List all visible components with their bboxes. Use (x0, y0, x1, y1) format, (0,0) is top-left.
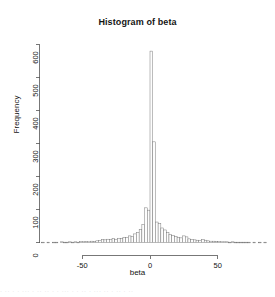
histogram-bar (253, 242, 256, 243)
histogram-bar (93, 242, 96, 243)
histogram-bar (85, 242, 88, 243)
histogram-bar (117, 238, 120, 242)
histogram-bar (158, 223, 161, 242)
histogram-bar (226, 242, 229, 243)
histogram-bar (185, 237, 188, 243)
histogram-bar (77, 242, 80, 243)
y-axis-tick-label: 300 (30, 143, 39, 169)
histogram-bar (88, 242, 91, 243)
histogram-bar (63, 242, 66, 243)
histogram-bar (248, 242, 251, 243)
histogram-bar (166, 233, 169, 243)
histogram-bar (212, 241, 215, 242)
histogram-bar (193, 240, 196, 243)
histogram-bar (172, 236, 175, 243)
histogram-bar (120, 239, 123, 243)
histogram-bar (123, 237, 126, 242)
histogram-bar (101, 240, 104, 243)
y-axis-tick-label: 600 (30, 44, 39, 70)
histogram-bar (134, 234, 137, 243)
histogram-bar (220, 242, 223, 243)
histogram-bar (139, 229, 142, 242)
histogram-bar (199, 241, 202, 243)
histogram-bar (104, 240, 107, 243)
histogram-bar (180, 238, 183, 243)
histogram-bar (66, 242, 69, 243)
histogram-bar (207, 241, 210, 243)
histogram-bar (242, 242, 245, 243)
y-axis-tick-label: 400 (30, 110, 39, 136)
histogram-bar (196, 240, 199, 242)
x-axis-tick-label: -50 (67, 261, 97, 270)
histogram-bar (153, 142, 156, 243)
histogram-bar (90, 241, 93, 242)
y-axis-tick-label: 500 (30, 77, 39, 103)
y-axis-tick-label: 100 (30, 209, 39, 235)
histogram-bar (109, 240, 112, 243)
histogram-bar (183, 236, 186, 243)
histogram-bar (147, 210, 150, 242)
histogram-bar (237, 242, 240, 243)
histogram-bar (201, 240, 204, 243)
histogram-plot: Histogram of beta Frequency beta 0100200… (0, 0, 275, 297)
histogram-bar (69, 242, 72, 243)
histogram-bar (145, 208, 148, 243)
histogram-bar (115, 239, 118, 242)
histogram-bar (142, 224, 145, 242)
histogram-bar (191, 240, 194, 243)
histogram-bar (128, 236, 131, 243)
x-axis-tick-label: 50 (203, 261, 233, 270)
histogram-bar (229, 242, 232, 243)
histogram-bar (82, 242, 85, 243)
histogram-bar (223, 242, 226, 243)
histogram-bar (52, 242, 55, 243)
histogram-bar (99, 241, 102, 243)
histogram-bar (71, 242, 74, 243)
histogram-bar (188, 239, 191, 243)
histogram-bar (239, 242, 242, 243)
histogram-bar (234, 242, 237, 243)
page-edge-artifact: · ·· · · ··· · ·· ·· · · ··· · · ·· · ··… (0, 288, 275, 297)
histogram-bar (174, 237, 177, 243)
histogram-bar (169, 234, 172, 242)
histogram-bar (155, 222, 158, 242)
histogram-bar (215, 242, 218, 243)
histogram-bar (112, 239, 115, 243)
histogram-bar (177, 237, 180, 242)
histogram-bar (126, 238, 129, 243)
histogram-bar (264, 242, 267, 243)
y-axis-tick-label: 200 (30, 176, 39, 202)
histogram-bar (204, 240, 207, 242)
histogram-bar (47, 242, 50, 243)
histogram-bar (231, 242, 234, 243)
histogram-bar (74, 242, 77, 243)
x-axis-line (82, 256, 218, 260)
histogram-bar (80, 242, 83, 243)
histogram-bar (96, 241, 99, 243)
histogram-bar (136, 232, 139, 242)
x-axis-tick-label: 0 (135, 261, 165, 270)
histogram-bar (131, 236, 134, 242)
y-axis-tick-label: 0 (30, 242, 39, 268)
histogram-bar (107, 239, 110, 242)
histogram-bar (55, 242, 58, 243)
histogram-bar (218, 242, 221, 243)
histogram-bar (164, 230, 167, 243)
histogram-bar (258, 242, 261, 243)
histogram-bar (210, 241, 213, 242)
histogram-bar (161, 228, 164, 243)
histogram-bar (245, 242, 248, 243)
plot-canvas (0, 0, 275, 297)
histogram-bar (42, 242, 45, 243)
histogram-bar (150, 51, 153, 242)
histogram-bar (61, 242, 64, 243)
